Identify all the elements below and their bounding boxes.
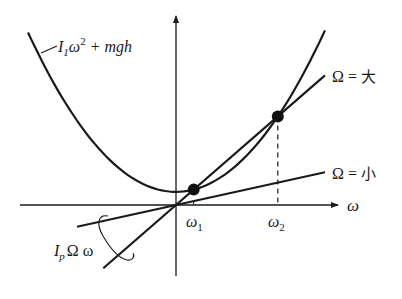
omega2-label: ω2	[268, 213, 285, 233]
line-omega-small	[77, 172, 325, 227]
intersection-point-omega2	[272, 110, 284, 122]
omega1-label: ω1	[186, 213, 203, 233]
diagram: I1ω2 + mgh Ω = 大 Ω = 小 ω ω1 ω2 IpΩ ω	[0, 0, 402, 299]
lines-label-bracket	[99, 216, 134, 260]
small-omega-label: Ω = 小	[332, 165, 376, 183]
x-axis-label: ω	[347, 196, 359, 215]
lines-label: IpΩ ω	[53, 242, 93, 262]
parabola-label-leader	[41, 46, 57, 53]
line-omega-large	[103, 75, 325, 268]
large-omega-label: Ω = 大	[332, 68, 376, 86]
parabola-label: I1ω2 + mgh	[57, 35, 132, 58]
intersection-point-omega1	[188, 184, 200, 196]
